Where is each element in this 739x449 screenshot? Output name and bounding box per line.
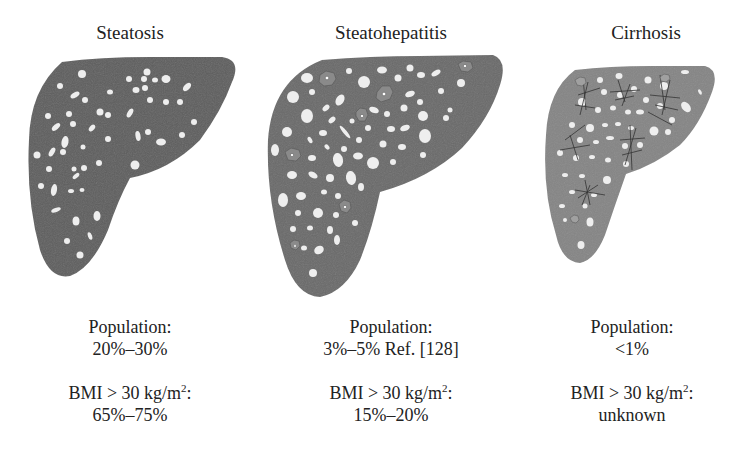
bmi-label: BMI > 30 kg/m2: (10, 382, 250, 404)
population-value: 20%–30% (10, 338, 250, 360)
info-steatohepatitis: Population: 3%–5% Ref. [128] BMI > 30 kg… (271, 316, 511, 426)
bmi-label: BMI > 30 kg/m2: (512, 382, 739, 404)
liver-cirrhosis-icon (545, 66, 715, 263)
info-steatosis: Population: 20%–30% BMI > 30 kg/m2: 65%–… (10, 316, 250, 426)
bmi-value: 65%–75% (10, 404, 250, 426)
bmi-value: unknown (512, 404, 739, 426)
bmi-label: BMI > 30 kg/m2: (271, 382, 511, 404)
population-value: <1% (512, 338, 739, 360)
liver-steatosis-icon (28, 57, 235, 276)
population-label: Population: (10, 316, 250, 338)
population-value: 3%–5% Ref. [128] (271, 338, 511, 360)
liver-steatohepatitis-icon (268, 55, 503, 297)
bmi-value: 15%–20% (271, 404, 511, 426)
info-cirrhosis: Population: <1% BMI > 30 kg/m2: unknown (512, 316, 739, 426)
population-label: Population: (512, 316, 739, 338)
population-label: Population: (271, 316, 511, 338)
